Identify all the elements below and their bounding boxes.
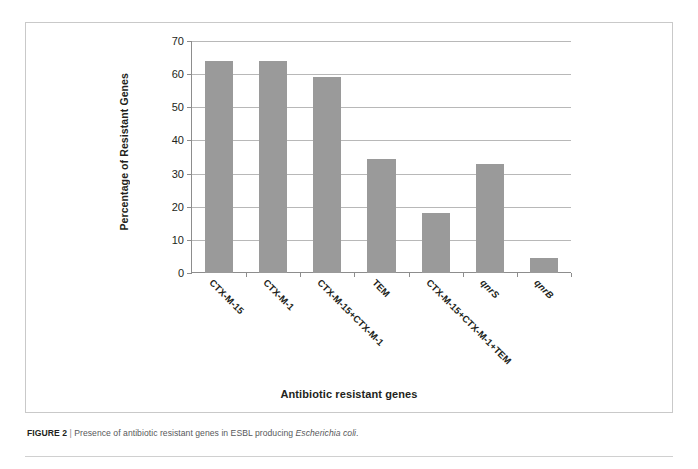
y-tick-label: 40	[172, 134, 184, 146]
x-axis-title: Antibiotic resistant genes	[26, 388, 672, 400]
y-tick-mark	[187, 207, 192, 208]
bar	[259, 61, 287, 273]
gridline	[192, 140, 571, 141]
x-tick-mark	[517, 273, 518, 277]
caption-text-after: .	[356, 428, 358, 438]
bottom-divider	[25, 456, 673, 457]
y-axis-title: Percentage of Resistant Genes	[118, 73, 132, 231]
y-tick-mark	[187, 273, 192, 274]
bar	[476, 164, 504, 273]
bar	[205, 61, 233, 273]
y-tick-label: 50	[172, 101, 184, 113]
bar	[422, 213, 450, 273]
y-tick-mark	[187, 41, 192, 42]
gridline	[192, 107, 571, 108]
figure-panel: Percentage of Resistant Genes 0102030405…	[25, 22, 673, 413]
caption-text-before: Presence of antibiotic resistant genes i…	[74, 428, 295, 438]
x-tick-label: CTX-M-1	[261, 277, 297, 313]
y-tick-label: 30	[172, 168, 184, 180]
x-tick-mark	[246, 273, 247, 277]
gridline	[192, 74, 571, 75]
figure-number: FIGURE 2	[27, 428, 67, 438]
plot-area: 010203040506070 CTX-M-15CTX-M-1CTX-M-15+…	[192, 41, 571, 273]
y-tick-label: 20	[172, 201, 184, 213]
x-tick-mark	[300, 273, 301, 277]
y-tick-mark	[187, 107, 192, 108]
y-tick-mark	[187, 174, 192, 175]
y-axis-line	[191, 41, 192, 273]
caption-species-name: Escherichia coli	[296, 428, 357, 438]
y-tick-mark	[187, 240, 192, 241]
bar	[313, 77, 341, 273]
y-tick-label: 0	[178, 267, 184, 279]
y-tick-mark	[187, 74, 192, 75]
x-tick-label: TEM	[370, 277, 392, 299]
y-tick-label: 10	[172, 234, 184, 246]
x-tick-mark	[463, 273, 464, 277]
bar	[530, 258, 558, 273]
y-tick-label: 60	[172, 68, 184, 80]
x-tick-label: CTX-M-15	[207, 277, 246, 316]
x-tick-mark	[354, 273, 355, 277]
x-tick-mark	[409, 273, 410, 277]
x-tick-mark	[571, 273, 572, 277]
bar	[367, 159, 395, 273]
y-tick-mark	[187, 140, 192, 141]
gridline	[192, 41, 571, 42]
x-tick-label: qnrB	[532, 277, 556, 301]
y-tick-label: 70	[172, 35, 184, 47]
x-tick-label: qnrS	[478, 277, 501, 300]
figure-caption: FIGURE 2 | Presence of antibiotic resist…	[27, 428, 673, 438]
